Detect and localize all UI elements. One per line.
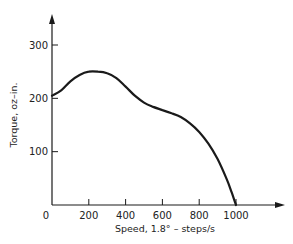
x-tick-label: 800 <box>190 210 209 221</box>
x-tick-label: 600 <box>153 210 172 221</box>
x-axis-label: Speed, 1.8° – steps/s <box>115 223 215 234</box>
y-tick-label: 300 <box>29 40 48 51</box>
x-tick-label: 400 <box>116 210 135 221</box>
torque-curve <box>52 71 236 205</box>
x-tick-label: 1000 <box>223 210 248 221</box>
y-tick-label: 200 <box>29 93 48 104</box>
x-axis-arrow-icon <box>275 202 285 208</box>
torque-speed-chart: 100200300 02004006008001000 Speed, 1.8° … <box>0 0 293 244</box>
x-tick-label: 200 <box>79 210 98 221</box>
plot-area: 100200300 02004006008001000 <box>29 14 285 221</box>
y-ticks: 100200300 <box>29 40 58 158</box>
x-ticks: 02004006008001000 <box>43 199 249 221</box>
y-axis-label: Torque, oz–in. <box>8 83 19 149</box>
y-tick-label: 100 <box>29 146 48 157</box>
x-tick-label: 0 <box>43 210 49 221</box>
y-axis-arrow-icon <box>49 14 55 24</box>
